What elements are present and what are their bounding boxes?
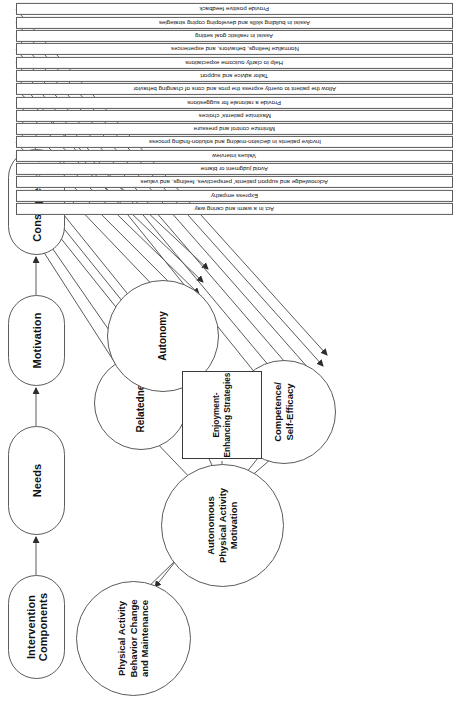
- construct-label: Physical Activity Behavior Change and Ma…: [116, 599, 152, 677]
- component-label: Acknowledge and support patients' perspe…: [141, 178, 328, 186]
- component-box[interactable]: Allow the patient to overtly express the…: [16, 83, 453, 95]
- construct-label: Competence/ Self-Efficacy: [272, 382, 296, 442]
- component-label: Help to clarify outcome expectations: [186, 59, 284, 67]
- component-box[interactable]: Values interview: [16, 150, 453, 162]
- component-label: Tailor advice and support: [201, 72, 269, 80]
- component-label: Allow the patient to overtly express the…: [133, 85, 336, 93]
- component-label: Minimize control and pressure: [194, 125, 275, 133]
- component-label: Assist in realistic goal setting: [196, 32, 274, 40]
- stage-intervention-components[interactable]: Intervention Components: [8, 575, 65, 679]
- component-box[interactable]: Help to clarify outcome expectations: [16, 57, 453, 69]
- component-box[interactable]: Involve patients in decision-making and …: [16, 136, 453, 148]
- construct-autonomous-motivation[interactable]: Autonomous Physical Activity Motivation: [161, 464, 284, 587]
- construct-label: Autonomy: [157, 311, 170, 360]
- component-label: Avoid judgment or blame: [201, 165, 268, 173]
- stage-needs[interactable]: Needs: [8, 426, 65, 535]
- component-box[interactable]: Minimize control and pressure: [16, 123, 453, 135]
- component-box[interactable]: Provide positive feedback: [16, 3, 453, 15]
- component-label: Involve patients in decision-making and …: [148, 138, 320, 146]
- component-label: Provide positive feedback: [200, 5, 269, 13]
- stage-label: Motivation: [31, 313, 43, 369]
- strategies-label: Enjoyment-Enhancing Strategies: [211, 372, 233, 458]
- component-label: Normalize feelings, behaviors, and exper…: [170, 45, 298, 53]
- figure-frame: Conceptual Model of Physical Activity Be…: [0, 0, 469, 715]
- component-label: Values interview: [213, 152, 257, 160]
- stage-motivation[interactable]: Motivation: [8, 295, 65, 386]
- component-label: Act in a warm and caring way: [195, 205, 275, 213]
- component-label: Express empathy: [211, 192, 258, 200]
- component-box[interactable]: Act in a warm and caring way: [16, 203, 453, 215]
- construct-label: Autonomous Physical Activity Motivation: [205, 488, 241, 563]
- component-box[interactable]: Assist in realistic goal setting: [16, 30, 453, 42]
- enjoyment-enhancing-strategies-box[interactable]: Enjoyment-Enhancing Strategies: [182, 371, 262, 459]
- component-box[interactable]: Express empathy: [16, 190, 453, 202]
- component-box[interactable]: Tailor advice and support: [16, 70, 453, 82]
- component-label: Provide a rationale for suggestions: [188, 98, 282, 106]
- component-box[interactable]: Maximize patients' choices: [16, 110, 453, 122]
- construct-behavior-change-maintenance[interactable]: Physical Activity Behavior Change and Ma…: [76, 581, 191, 696]
- stage-label: Intervention Components: [25, 576, 49, 678]
- component-box[interactable]: Provide a rationale for suggestions: [16, 97, 453, 109]
- diagram-canvas: Intervention Components Needs Motivation…: [0, 0, 469, 715]
- component-box[interactable]: Avoid judgment or blame: [16, 163, 453, 175]
- component-label: Assist in building skills and developing…: [159, 19, 310, 27]
- component-box[interactable]: Assist in building skills and developing…: [16, 17, 453, 29]
- component-box[interactable]: Normalize feelings, behaviors, and exper…: [16, 43, 453, 55]
- stage-label: Needs: [31, 464, 43, 498]
- component-box[interactable]: Acknowledge and support patients' perspe…: [16, 176, 453, 188]
- component-label: Maximize patients' choices: [198, 112, 270, 120]
